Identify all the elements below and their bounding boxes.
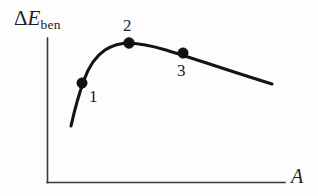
energy-variable: E (28, 6, 41, 30)
data-point-3 (178, 48, 188, 58)
y-axis-label: ΔEben (14, 8, 61, 31)
curve-group (71, 43, 272, 126)
data-point-label-1: 1 (89, 88, 98, 105)
figure-container: ΔEben A 1 2 3 (0, 0, 318, 196)
delta-symbol: Δ (14, 6, 28, 30)
binding-energy-curve (71, 43, 272, 126)
data-point-label-2: 2 (123, 17, 132, 34)
data-point-2 (124, 38, 135, 49)
y-axis-label-subscript: ben (41, 17, 61, 32)
data-point-label-3: 3 (177, 62, 186, 79)
data-point-1 (77, 78, 87, 88)
axes-group (47, 38, 285, 183)
x-axis-label: A (291, 166, 303, 186)
